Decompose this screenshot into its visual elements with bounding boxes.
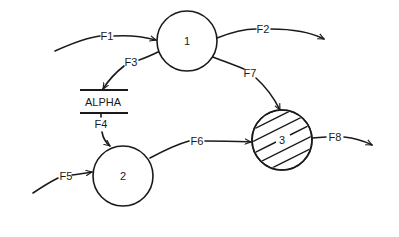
process-1-label: 1 xyxy=(184,35,190,47)
process-3: 3 xyxy=(240,84,320,208)
flow-f1: F1 xyxy=(55,30,156,51)
flow-f1-arrow xyxy=(114,36,156,40)
flow-f4-label: F4 xyxy=(95,118,108,130)
flow-f8-label: F8 xyxy=(329,131,342,143)
flow-f2-arrow xyxy=(271,29,324,39)
flow-f1-label: F1 xyxy=(101,30,114,42)
flow-f3: F3 xyxy=(103,51,160,89)
data-store-label: ALPHA xyxy=(85,96,122,108)
flow-f7-line xyxy=(213,57,244,69)
flow-f3-arrow xyxy=(103,66,124,89)
flow-f6-arrow xyxy=(205,141,251,142)
flow-f7-arrow xyxy=(256,78,280,110)
flow-f4: F4 xyxy=(95,113,110,146)
flow-f3-line xyxy=(139,51,160,60)
flow-f5: F5 xyxy=(33,170,92,193)
flow-f2: F2 xyxy=(217,23,324,39)
flow-f8-arrow xyxy=(344,137,372,145)
flow-f6-line xyxy=(150,141,189,158)
process-1: 1 xyxy=(157,11,217,71)
process-2: 2 xyxy=(93,146,153,206)
flow-f7: F7 xyxy=(213,57,280,110)
flow-f4-arrow xyxy=(102,132,110,146)
flow-f6-label: F6 xyxy=(191,135,204,147)
data-flow-diagram: F1 F2 F3 ALPHA F4 F5 F6 F7 xyxy=(0,0,399,237)
flow-f3-label: F3 xyxy=(125,56,138,68)
flow-f8: F8 xyxy=(312,131,372,145)
flow-f5-arrow xyxy=(72,172,92,175)
flow-f7-label: F7 xyxy=(244,67,257,79)
data-store-alpha: ALPHA xyxy=(80,90,128,113)
flow-f6: F6 xyxy=(150,135,251,158)
process-3-label: 3 xyxy=(279,134,285,146)
flow-f1-line xyxy=(55,36,100,51)
process-2-label: 2 xyxy=(120,170,126,182)
flow-f8-line xyxy=(312,137,326,138)
flow-f5-line xyxy=(33,178,58,193)
flow-f2-label: F2 xyxy=(257,23,270,35)
flow-f5-label: F5 xyxy=(60,170,73,182)
flow-f2-line xyxy=(217,29,256,38)
